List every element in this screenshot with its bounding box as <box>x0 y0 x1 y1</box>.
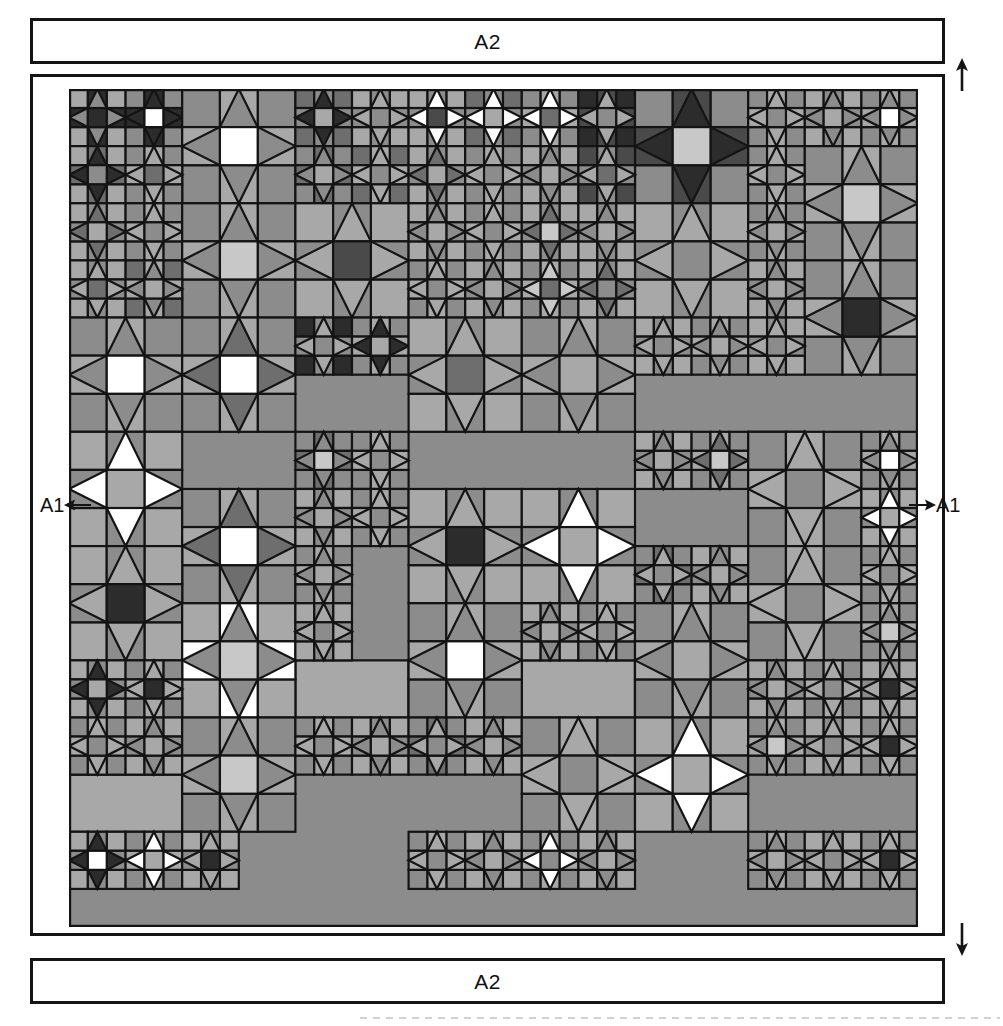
arrow-left-icon <box>64 496 92 514</box>
border-strip-bottom-label: A2 <box>474 971 501 992</box>
section-marker-right: A1 <box>908 492 960 518</box>
section-marker-left-label: A1 <box>40 495 64 515</box>
border-strip-bottom: A2 <box>30 958 945 1004</box>
arrow-down-icon <box>952 922 972 956</box>
quilt-blocks-svg <box>69 89 918 927</box>
quilt-pattern <box>69 89 918 927</box>
quilt-frame <box>30 74 945 936</box>
arrow-right-icon <box>908 496 936 514</box>
border-strip-top-label: A2 <box>474 31 501 52</box>
border-strip-top: A2 <box>30 18 945 64</box>
section-marker-right-label: A1 <box>936 495 960 515</box>
arrow-up-icon <box>952 58 972 92</box>
footer-dashed-rule <box>360 1017 1000 1019</box>
section-marker-left: A1 <box>40 492 92 518</box>
technical-drawing-canvas: A2 A1 A1 A2 <box>0 0 1003 1026</box>
